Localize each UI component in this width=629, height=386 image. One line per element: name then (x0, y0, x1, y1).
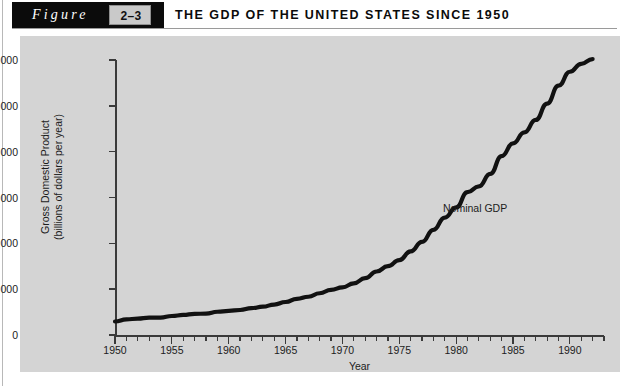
y-tick-label: 3,000 (0, 193, 18, 203)
y-axis-title: Gross Domestic Product (billions of doll… (39, 72, 65, 282)
figure-number-box: 2–3 (109, 5, 151, 25)
y-tick-label: 5,000 (0, 101, 18, 111)
y-tick-label: 6,000 (0, 55, 18, 65)
figure-root: Figure 2–3 THE GDP OF THE UNITED STATES … (0, 0, 629, 386)
y-axis-title-line1: Gross Domestic Product (39, 72, 52, 282)
x-axis-title: Year (115, 360, 604, 372)
y-tick-label: 1,000 (0, 284, 18, 294)
y-tick-label: 2,000 (0, 238, 18, 248)
y-tick-label: 0 (12, 330, 18, 340)
y-tick-label: 4,000 (0, 147, 18, 157)
figure-title: THE GDP OF THE UNITED STATES SINCE 1950 (175, 7, 510, 23)
chart-panel: 01,0002,0003,0004,0005,0006,000 19501955… (20, 36, 620, 372)
figure-header: Figure 2–3 THE GDP OF THE UNITED STATES … (12, 2, 617, 28)
y-axis-title-line2: (billions of dollars per year) (52, 72, 65, 282)
figure-word-label: Figure (32, 6, 89, 24)
figure-number-label: 2–3 (110, 6, 152, 26)
figure-header-underline (12, 28, 617, 29)
plot-area: 01,0002,0003,0004,0005,0006,000 19501955… (20, 36, 620, 372)
gdp-line-series (20, 36, 620, 372)
nominal-gdp-annotation: Nominal GDP (443, 202, 507, 214)
